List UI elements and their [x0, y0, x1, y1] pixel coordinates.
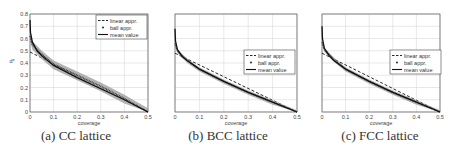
- legend-entry: ball appr.: [258, 60, 281, 66]
- legend: linear appr.ball appr.mean value: [390, 50, 441, 74]
- y-tick-label: 0.3: [20, 72, 28, 78]
- y-tick-label: 0.5: [20, 48, 28, 54]
- legend: linear appr.ball appr.mean value: [244, 50, 295, 74]
- y-tick-label: 0: [25, 109, 28, 115]
- legend-entry: linear appr.: [110, 18, 138, 24]
- y-tick-label: 0.2: [20, 85, 28, 91]
- x-tick-label: 0.1: [342, 114, 350, 120]
- caption-bcc: (b) BCC lattice: [152, 128, 304, 144]
- y-axis-label: d*: [9, 58, 15, 64]
- x-tick-label: 0.1: [50, 114, 58, 120]
- chart-bcc-lattice: 00.10.20.30.40.5coveragelinear appr.ball…: [152, 0, 304, 155]
- y-tick-label: 0.4: [20, 60, 28, 66]
- x-tick-label: 0.1: [196, 114, 204, 120]
- x-axis-label: coverage: [225, 120, 248, 126]
- x-tick-label: 0.4: [269, 114, 277, 120]
- x-tick-label: 0.5: [436, 114, 444, 120]
- legend: linear appr.ball appr.mean value: [96, 15, 147, 39]
- legend-entry: linear appr.: [258, 53, 286, 59]
- plot-cc: 00.10.20.30.40.500.10.20.30.40.50.60.70.…: [0, 0, 152, 128]
- caption-cc: (a) CC lattice: [0, 128, 152, 144]
- legend-entry: mean value: [110, 32, 138, 38]
- plot-bcc: 00.10.20.30.40.5coveragelinear appr.ball…: [152, 0, 304, 128]
- x-tick-label: 0.4: [413, 114, 421, 120]
- chart-fcc-lattice: 00.10.20.30.40.5coveragelinear appr.ball…: [304, 0, 456, 155]
- x-tick-label: 0.5: [293, 114, 301, 120]
- legend-entry: ball appr.: [110, 25, 133, 31]
- y-tick-label: 0.6: [20, 36, 28, 42]
- y-tick-label: 0.8: [20, 11, 28, 17]
- legend-entry: linear appr.: [404, 53, 432, 59]
- legend-entry: mean value: [404, 67, 432, 73]
- x-tick-label: 0: [320, 114, 323, 120]
- chart-cc-lattice: 00.10.20.30.40.500.10.20.30.40.50.60.70.…: [0, 0, 152, 155]
- y-tick-label: 0.1: [20, 97, 28, 103]
- x-axis-label: coverage: [370, 120, 393, 126]
- x-tick-label: 0: [28, 114, 31, 120]
- x-tick-label: 0: [173, 114, 176, 120]
- legend-entry: mean value: [258, 67, 286, 73]
- x-axis-label: coverage: [78, 120, 101, 126]
- ball-appr-band: [30, 32, 148, 112]
- plot-fcc: 00.10.20.30.40.5coveragelinear appr.ball…: [304, 0, 456, 128]
- x-tick-label: 0.5: [144, 114, 152, 120]
- caption-fcc: (c) FCC lattice: [304, 128, 456, 144]
- x-tick-label: 0.4: [121, 114, 129, 120]
- legend-entry: ball appr.: [404, 60, 427, 66]
- y-tick-label: 0.7: [20, 23, 28, 29]
